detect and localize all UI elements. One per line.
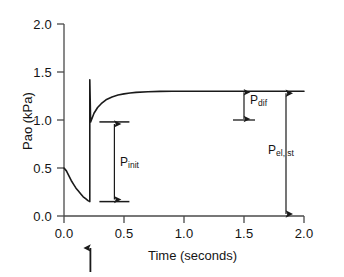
y-axis-ticks [57,24,64,216]
x-axis-title: Time (seconds) [148,248,237,263]
pressure-curve [64,80,304,202]
x-tick-label-1.0: 1.0 [168,226,200,241]
x-tick-label-0.0: 0.0 [48,226,80,241]
y-tick-label-0.5: 0.5 [24,161,52,176]
p-init-label: Pinit [120,155,139,169]
x-tick-label-2.0: 2.0 [288,226,320,241]
p-dif-label-main: P [250,93,258,107]
p-el-st-label-sub: el, st [276,148,294,158]
chart-figure: 2.0 1.5 1.0 0.5 0.0 0.0 0.5 1.0 1.5 2.0 … [0,0,344,277]
y-axis-title: Pao (kPa) [20,92,35,150]
p-init-label-main: P [120,155,128,169]
y-tick-label-0.0: 0.0 [24,209,52,224]
p-el-st-label-main: P [268,143,276,157]
p-dif-label: Pdif [250,93,267,107]
p-init-label-sub: init [128,160,139,170]
x-tick-label-1.5: 1.5 [228,226,260,241]
axis-lines [64,24,304,216]
y-tick-label-1.5: 1.5 [24,65,52,80]
p-el-st-label: Pel, st [268,143,294,157]
y-tick-label-2.0: 2.0 [24,17,52,32]
x-tick-label-0.5: 0.5 [108,226,140,241]
x-axis-ticks [64,216,304,223]
p-dif-label-sub: dif [258,98,267,108]
